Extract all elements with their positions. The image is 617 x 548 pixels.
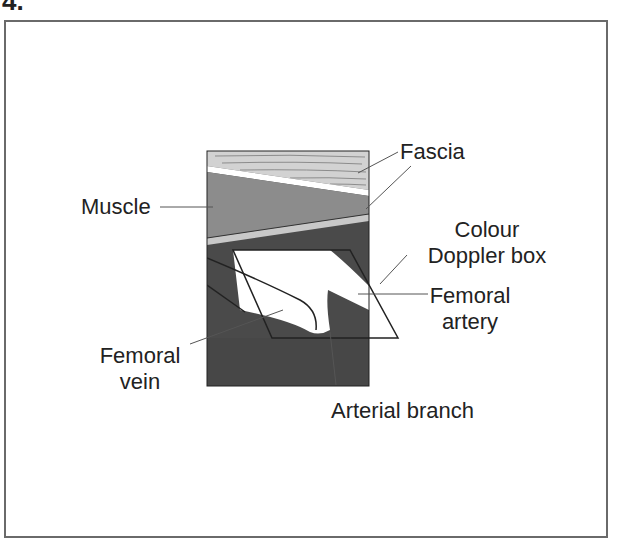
label-fascia: Fascia bbox=[400, 139, 465, 165]
label-arterial-branch: Arterial branch bbox=[331, 398, 474, 424]
label-femoral-vein: Femoral vein bbox=[94, 343, 186, 395]
label-femoral-artery: Femoral artery bbox=[425, 283, 515, 335]
label-muscle: Muscle bbox=[81, 194, 151, 220]
ultrasound-schematic bbox=[0, 0, 617, 548]
label-colour-doppler-box: Colour Doppler box bbox=[412, 217, 562, 269]
